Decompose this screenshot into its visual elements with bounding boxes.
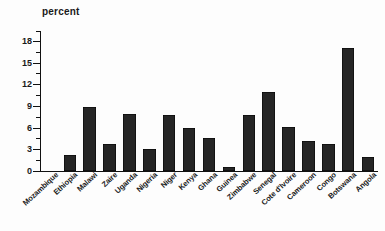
y-axis-tick-label: 6 xyxy=(2,123,32,133)
y-axis-tick xyxy=(33,41,40,42)
y-axis-tick xyxy=(33,63,40,64)
x-axis-category-labels: MozambiqueEthiopiaMalawiZaireUgandaNiger… xyxy=(40,173,378,231)
bar xyxy=(342,48,355,171)
y-axis-tick xyxy=(33,171,40,172)
y-axis-minor-tick xyxy=(36,95,40,96)
y-axis-title: percent xyxy=(42,6,80,17)
y-axis-tick xyxy=(33,149,40,150)
y-axis-minor-tick xyxy=(36,138,40,139)
bar-chart-figure: percent 0369121518 MozambiqueEthiopiaMal… xyxy=(0,0,385,231)
y-axis-tick-label: 12 xyxy=(2,79,32,89)
y-axis-tick xyxy=(33,106,40,107)
y-axis-tick-label: 15 xyxy=(2,58,32,68)
y-axis-tick-label: 3 xyxy=(2,144,32,154)
y-axis-minor-tick xyxy=(36,31,40,32)
y-axis-tick-label: 0 xyxy=(2,166,32,176)
y-axis-tick xyxy=(33,84,40,85)
y-axis-minor-tick xyxy=(36,52,40,53)
plot-area xyxy=(40,30,378,171)
y-axis-minor-tick xyxy=(36,117,40,118)
y-axis-tick-label: 18 xyxy=(2,36,32,46)
y-axis-minor-tick xyxy=(36,160,40,161)
y-axis-minor-tick xyxy=(36,73,40,74)
y-axis-tick xyxy=(33,128,40,129)
y-axis-tick-label: 9 xyxy=(2,101,32,111)
